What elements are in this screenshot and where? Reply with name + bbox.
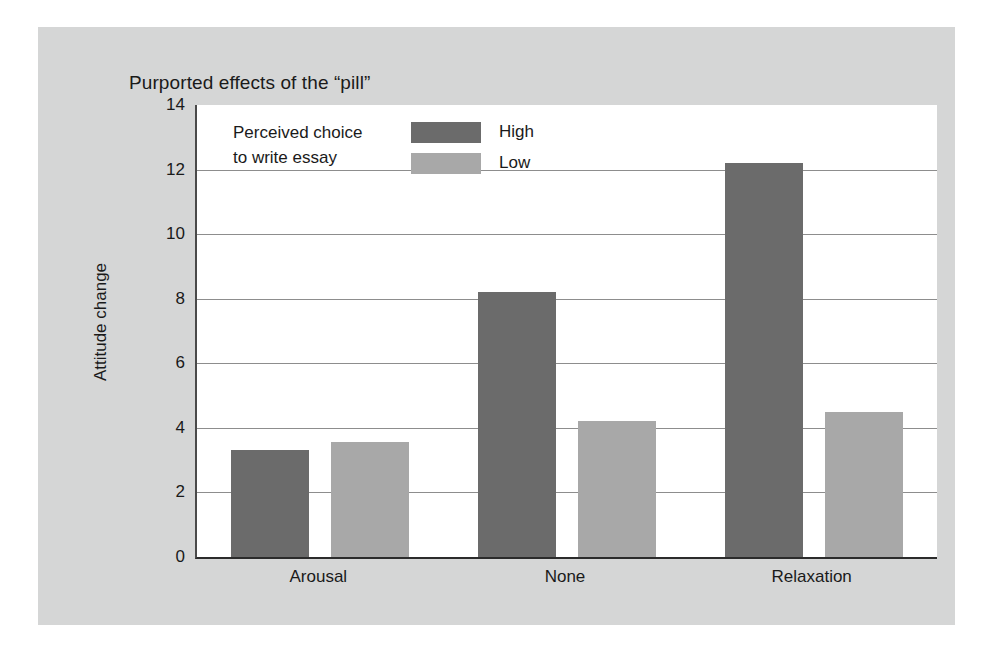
figure-root: Purported effects of the “pill” Attitude…	[0, 0, 989, 661]
gridline	[197, 299, 937, 300]
bar-arousal-low	[331, 442, 409, 557]
bar-relaxation-high	[725, 163, 803, 557]
legend-swatch-low	[411, 153, 481, 174]
chart-legend: Perceived choice to write essay HighLow	[233, 120, 563, 184]
bar-relaxation-low	[825, 412, 903, 557]
x-tick-label-arousal: Arousal	[290, 567, 348, 587]
y-tick-label: 4	[149, 418, 185, 438]
y-tick-label: 12	[149, 160, 185, 180]
chart-title: Purported effects of the “pill”	[129, 72, 370, 94]
x-tick-label-none: None	[545, 567, 586, 587]
legend-swatch-high	[411, 122, 481, 143]
y-tick-label: 0	[149, 547, 185, 567]
gridline	[197, 363, 937, 364]
figure-panel: Purported effects of the “pill” Attitude…	[38, 27, 955, 625]
y-axis-tick-labels: 02468101214	[141, 105, 185, 557]
legend-title: Perceived choice to write essay	[233, 120, 362, 170]
y-tick-label: 14	[149, 95, 185, 115]
legend-title-line-1: Perceived choice	[233, 120, 362, 145]
legend-label-high: High	[499, 121, 534, 142]
bar-none-high	[478, 292, 556, 557]
legend-title-line-2: to write essay	[233, 145, 362, 170]
bar-none-low	[578, 421, 656, 557]
bar-arousal-high	[231, 450, 309, 557]
gridline	[197, 234, 937, 235]
y-tick-label: 6	[149, 353, 185, 373]
y-tick-label: 10	[149, 224, 185, 244]
y-axis-title: Attitude change	[91, 232, 111, 412]
y-tick-label: 2	[149, 482, 185, 502]
y-tick-label: 8	[149, 289, 185, 309]
x-tick-label-relaxation: Relaxation	[771, 567, 851, 587]
legend-label-low: Low	[499, 152, 530, 173]
